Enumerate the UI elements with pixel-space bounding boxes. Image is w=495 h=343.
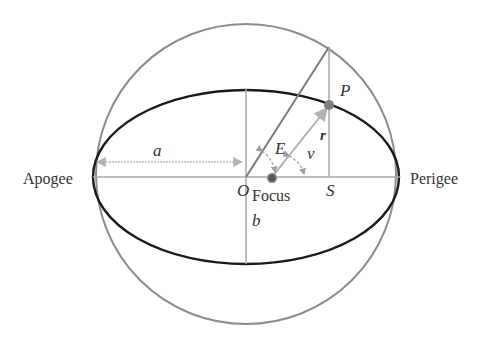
satellite-point [324, 100, 334, 110]
point-p-label: P [339, 81, 350, 100]
focus-label: Focus [252, 187, 290, 204]
orbit-diagram: Apogee Perigee a b O Focus P S E ν r [0, 0, 495, 343]
true-anomaly-label: ν [307, 144, 315, 163]
apogee-label: Apogee [23, 170, 73, 188]
perigee-label: Perigee [410, 170, 458, 188]
radius-label: r [320, 127, 326, 143]
true-anomaly-arc [289, 156, 304, 174]
eccentric-anomaly-arc [262, 151, 275, 172]
eccentric-anomaly-label: E [274, 139, 286, 158]
semi-major-label: a [153, 141, 162, 160]
foot-s-label: S [326, 181, 335, 200]
focus-point [268, 174, 277, 183]
semi-minor-label: b [252, 211, 261, 230]
center-label: O [237, 181, 249, 200]
